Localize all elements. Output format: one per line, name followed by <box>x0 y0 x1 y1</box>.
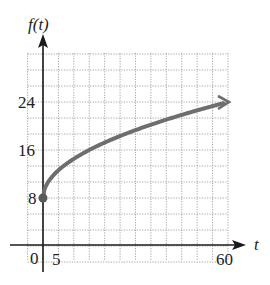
series-curve <box>39 96 230 203</box>
y-tick-label-8: 8 <box>28 189 37 208</box>
x-tick-label-5: 5 <box>52 250 61 269</box>
grid <box>28 53 228 262</box>
x-axis-label: t <box>254 235 260 254</box>
y-axis-label: f(t) <box>28 15 49 34</box>
chart-canvas: f(t) t 0 5 60 8 16 24 <box>0 0 270 285</box>
y-tick-label-16: 16 <box>18 141 35 160</box>
x-axis <box>10 240 246 250</box>
y-tick-label-24: 24 <box>18 93 36 112</box>
curve-path <box>43 103 223 198</box>
x-tick-label-60: 60 <box>216 250 233 269</box>
start-point-marker <box>39 194 48 203</box>
origin-label: 0 <box>30 249 39 268</box>
